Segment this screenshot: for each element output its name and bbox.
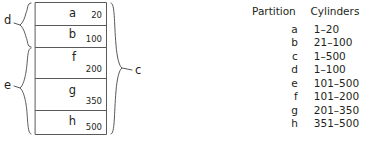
brace-label-e: e — [4, 80, 11, 92]
cell-partition: c — [250, 50, 298, 64]
cell-cylinders: 101–500 — [298, 77, 372, 91]
table-row: e 101–500 — [250, 77, 372, 91]
disk-partition-diagram: d e c a b f g h 20 100 200 350 500 — [0, 0, 150, 143]
cell-cylinders: 101–200 — [298, 90, 372, 104]
table-row: a 1–20 — [250, 23, 372, 37]
disk-row-letter-h: h — [54, 116, 76, 128]
disk-row-size-b: 100 — [76, 35, 102, 44]
cell-cylinders: 1–20 — [298, 23, 372, 37]
table-row: h 351–500 — [250, 117, 372, 131]
brace-e — [20, 48, 31, 134]
brace-d — [20, 3, 31, 47]
cell-partition: e — [250, 77, 298, 91]
table-row: d 1–100 — [250, 63, 372, 77]
brace-e-tick — [14, 86, 20, 88]
disk-row-letter-g: g — [54, 85, 76, 97]
brace-c — [111, 3, 122, 134]
brace-label-c: c — [135, 65, 141, 77]
brace-label-d: d — [4, 15, 11, 27]
cell-partition: b — [250, 36, 298, 50]
disk-row-size-a: 20 — [76, 11, 102, 20]
disk-row-size-f: 200 — [76, 65, 102, 74]
table-header-row: Partition Cylinders — [250, 6, 372, 23]
disk-row-size-h: 500 — [76, 123, 102, 132]
cell-cylinders: 1–100 — [298, 63, 372, 77]
cell-cylinders: 351–500 — [298, 117, 372, 131]
disk-row-letter-a: a — [54, 8, 76, 20]
table-row: c 1–500 — [250, 50, 372, 64]
cell-partition: a — [250, 23, 298, 37]
cell-partition: f — [250, 90, 298, 104]
disk-row-letter-f: f — [54, 52, 76, 64]
column-header-cylinders: Cylinders — [298, 6, 372, 23]
table-row: b 21–100 — [250, 36, 372, 50]
disk-row-letter-b: b — [54, 29, 76, 41]
cell-cylinders: 1–500 — [298, 50, 372, 64]
cell-cylinders: 201–350 — [298, 104, 372, 118]
column-header-partition: Partition — [250, 6, 298, 23]
cell-partition: h — [250, 117, 298, 131]
cell-cylinders: 21–100 — [298, 36, 372, 50]
partition-cylinders-table: Partition Cylinders a 1–20 b 21–100 c 1–… — [250, 6, 372, 131]
cell-partition: d — [250, 63, 298, 77]
table-row: g 201–350 — [250, 104, 372, 118]
table-row: f 101–200 — [250, 90, 372, 104]
cell-partition: g — [250, 104, 298, 118]
brace-d-tick — [14, 23, 20, 25]
brace-c-tick — [122, 68, 132, 70]
disk-row-size-g: 350 — [76, 97, 102, 106]
